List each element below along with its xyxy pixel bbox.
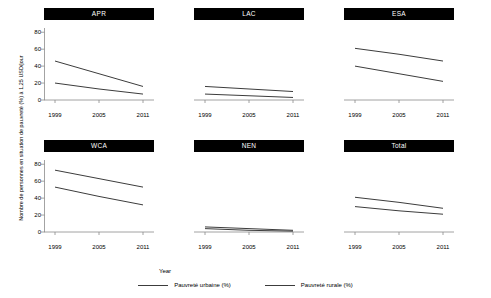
plot-area-wca [44, 154, 154, 240]
y-tick-label: 80 [34, 29, 41, 35]
legend-line-urban-icon [138, 285, 168, 286]
panel-nen: NEN199920052011 [194, 140, 304, 240]
series-line-rural [205, 227, 293, 230]
panel-title-nen: NEN [194, 140, 304, 152]
y-tick-label: 40 [34, 195, 41, 201]
x-tick-label: 2005 [392, 244, 405, 250]
x-tick-label: 2011 [287, 244, 300, 250]
legend-label-urban: Pauvreté urbaine (%) [174, 282, 231, 288]
series-line-rural [55, 170, 143, 187]
panel-wca: WCA020406080199920052011 [44, 140, 154, 240]
x-tick-label: 1999 [348, 112, 361, 118]
series-line-rural [55, 61, 143, 86]
chart-legend: Pauvreté urbaine (%) Pauvreté rurale (%) [0, 282, 491, 288]
y-tick-label: 0 [38, 97, 41, 103]
x-tick-label: 2011 [437, 244, 450, 250]
panel-total: Total199920052011 [344, 140, 454, 240]
plot-area-total [344, 154, 454, 240]
x-tick-label: 1999 [198, 244, 211, 250]
legend-label-rural: Pauvreté rurale (%) [301, 282, 353, 288]
series-line-rural [205, 86, 293, 91]
x-tick-label: 1999 [348, 244, 361, 250]
panel-lac: LAC199920052011 [194, 8, 304, 108]
chart-figure: Nombre de personnes en situation de pauv… [0, 0, 491, 298]
x-tick-label: 1999 [48, 112, 61, 118]
x-tick-label: 2005 [92, 112, 105, 118]
panel-title-total: Total [344, 140, 454, 152]
y-tick-label: 20 [34, 80, 41, 86]
legend-item-rural: Pauvreté rurale (%) [265, 282, 353, 288]
series-line-rural [355, 197, 443, 208]
x-tick-label: 2011 [287, 112, 300, 118]
plot-area-apr [44, 22, 154, 108]
x-tick-label: 2005 [242, 112, 255, 118]
x-tick-label: 1999 [198, 112, 211, 118]
series-line-rural [355, 48, 443, 61]
y-tick-label: 60 [34, 46, 41, 52]
x-tick-label: 2005 [242, 244, 255, 250]
x-axis-title: Year [0, 268, 330, 274]
series-line-urban [55, 187, 143, 205]
y-tick-label: 20 [34, 212, 41, 218]
y-tick-label: 60 [34, 178, 41, 184]
panel-apr: APR020406080199920052011 [44, 8, 154, 108]
y-tick-label: 0 [38, 229, 41, 235]
x-tick-label: 2011 [437, 112, 450, 118]
legend-item-urban: Pauvreté urbaine (%) [138, 282, 231, 288]
panel-title-esa: ESA [344, 8, 454, 20]
panel-title-apr: APR [44, 8, 154, 20]
y-tick-label: 80 [34, 161, 41, 167]
panel-title-lac: LAC [194, 8, 304, 20]
x-tick-label: 2005 [392, 112, 405, 118]
x-tick-label: 1999 [48, 244, 61, 250]
y-tick-label: 40 [34, 63, 41, 69]
y-axis-title: Nombre de personnes en situation de pauv… [18, 13, 24, 263]
plot-area-esa [344, 22, 454, 108]
panel-title-wca: WCA [44, 140, 154, 152]
x-tick-label: 2005 [92, 244, 105, 250]
x-tick-label: 2011 [137, 244, 150, 250]
series-line-urban [355, 66, 443, 81]
legend-line-rural-icon [265, 285, 295, 286]
panel-esa: ESA199920052011 [344, 8, 454, 108]
series-line-urban [55, 83, 143, 94]
series-line-urban [355, 207, 443, 215]
x-tick-label: 2011 [137, 112, 150, 118]
plot-area-lac [194, 22, 304, 108]
series-line-urban [205, 94, 293, 97]
plot-area-nen [194, 154, 304, 240]
